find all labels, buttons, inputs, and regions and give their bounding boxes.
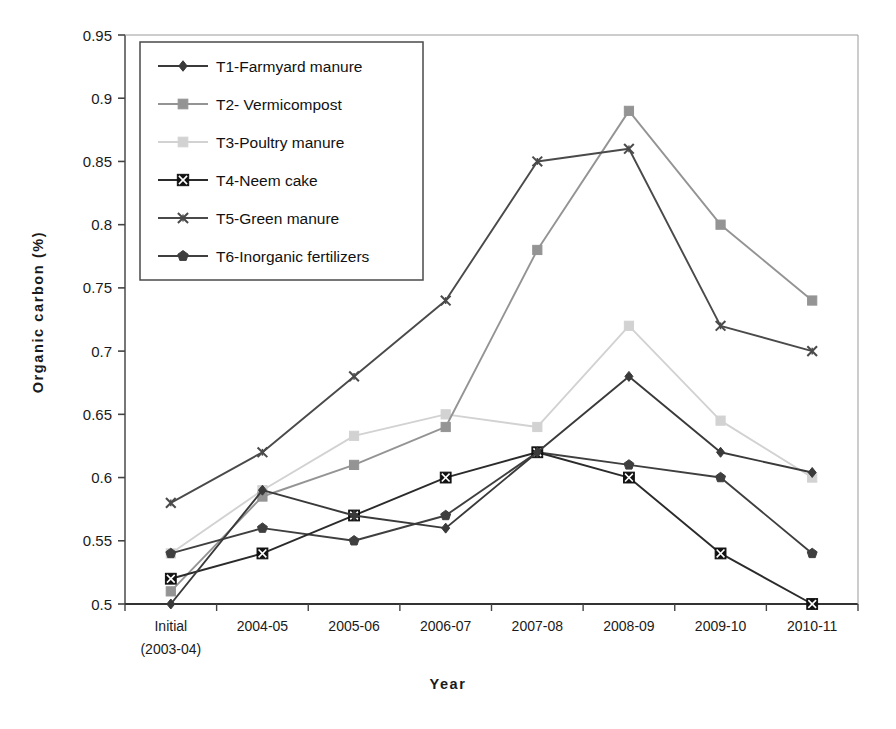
data-point-marker — [441, 510, 451, 519]
y-axis-tick-label: 0.65 — [83, 406, 112, 423]
y-axis-tick-label: 0.55 — [83, 532, 112, 549]
x-axis-tick-label: 2009-10 — [695, 618, 747, 634]
data-point-marker — [441, 410, 450, 419]
y-axis-tick-label: 0.7 — [91, 343, 112, 360]
series-1 — [167, 371, 816, 609]
y-axis-tick-label: 0.85 — [83, 153, 112, 170]
legend-item-label: T3-Poultry manure — [216, 134, 344, 151]
data-point-marker — [533, 245, 542, 254]
data-point-marker — [166, 587, 175, 596]
data-point-marker — [716, 472, 726, 481]
legend-border — [140, 42, 423, 280]
x-axis-tick-label: 2007-08 — [512, 618, 564, 634]
data-point-marker — [257, 523, 267, 532]
legend-item-label: T4-Neem cake — [216, 172, 318, 189]
data-point-marker — [349, 536, 359, 545]
y-axis-tick-label: 0.6 — [91, 469, 112, 486]
data-point-marker — [178, 137, 188, 147]
y-axis-tick-label: 0.95 — [83, 27, 112, 44]
data-point-marker — [349, 431, 358, 440]
data-point-marker — [178, 99, 188, 109]
series-6 — [166, 447, 817, 558]
data-point-marker — [349, 460, 358, 469]
x-axis-tick-label: 2005-06 — [328, 618, 380, 634]
chart-container: Organic carbon (%) Year 0.50.550.60.650.… — [0, 0, 896, 729]
data-point-marker — [533, 422, 542, 431]
x-axis-tick-label: 2008-09 — [603, 618, 655, 634]
data-point-marker — [624, 321, 633, 330]
legend-item-label: T5-Green manure — [216, 210, 339, 227]
x-axis-tick-label: 2010-11 — [787, 618, 838, 634]
x-axis-tick-label: 2006-07 — [420, 618, 472, 634]
data-point-marker — [624, 106, 633, 115]
legend-item-label: T1-Farmyard manure — [216, 58, 362, 75]
data-point-marker — [716, 416, 725, 425]
line-chart-svg: 0.50.550.60.650.70.750.80.850.90.95Initi… — [0, 0, 896, 729]
x-axis-tick-label: 2004-05 — [237, 618, 289, 634]
y-axis-tick-label: 0.5 — [91, 596, 112, 613]
data-point-marker — [624, 460, 634, 469]
series-line — [171, 326, 812, 554]
y-axis-tick-label: 0.9 — [91, 90, 112, 107]
data-point-marker — [716, 220, 725, 229]
series-3 — [166, 321, 817, 558]
legend-item-label: T6-Inorganic fertilizers — [216, 248, 370, 265]
legend-item-label: T2- Vermicompost — [216, 96, 342, 113]
x-axis-tick-sublabel: (2003-04) — [140, 641, 201, 657]
series-line — [171, 452, 812, 553]
data-point-marker — [808, 296, 817, 305]
legend-box: T1-Farmyard manureT2- VermicompostT3-Pou… — [140, 42, 423, 280]
y-axis-tick-label: 0.75 — [83, 279, 112, 296]
y-axis-tick-label: 0.8 — [91, 216, 112, 233]
x-axis-tick-label: Initial — [154, 618, 187, 634]
data-point-marker — [441, 422, 450, 431]
